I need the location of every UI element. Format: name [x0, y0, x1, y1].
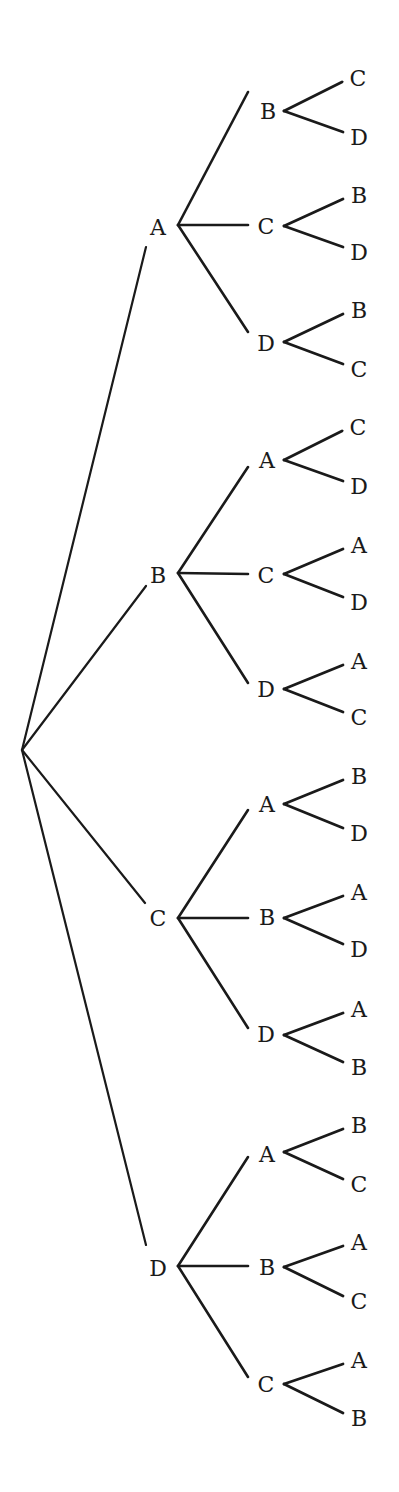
- branch-BD-to-A: [284, 665, 343, 689]
- branch-AC-to-D: [284, 226, 343, 247]
- branch-CD-to-B: [284, 1035, 343, 1062]
- leaf-BDA: A: [351, 651, 367, 673]
- node-level2-BA: A: [259, 450, 275, 472]
- node-level2-CB: B: [259, 907, 275, 929]
- node-level1-C: C: [150, 908, 167, 930]
- leaf-ADC: C: [351, 359, 368, 381]
- branch-A-to-D: [178, 225, 248, 332]
- leaf-BAD: D: [350, 476, 368, 498]
- node-level2-DB: B: [259, 1257, 275, 1279]
- leaf-CDA: A: [351, 999, 367, 1021]
- branch-AB-to-D: [284, 111, 343, 132]
- branch-root-to-A: [22, 247, 146, 750]
- leaf-CAD: D: [350, 823, 368, 845]
- branch-AD-to-B: [284, 314, 343, 342]
- branch-DB-to-C: [284, 1267, 343, 1296]
- branch-AD-to-C: [284, 342, 343, 364]
- branch-D-to-A: [178, 1157, 248, 1266]
- leaf-BCD: D: [350, 592, 368, 614]
- branch-BC-to-A: [284, 549, 343, 574]
- node-level2-CD: D: [257, 1024, 275, 1046]
- node-level1-D: D: [149, 1258, 167, 1280]
- leaf-BDC: C: [351, 707, 368, 729]
- branch-B-to-A: [178, 467, 248, 573]
- leaf-DCA: A: [351, 1350, 367, 1372]
- branch-C-to-D: [178, 918, 248, 1028]
- node-level2-AD: D: [257, 333, 275, 355]
- leaf-DCB: B: [351, 1408, 367, 1430]
- leaf-BAC: C: [350, 417, 367, 439]
- branch-BA-to-C: [284, 431, 342, 460]
- node-level2-AB: B: [260, 101, 276, 123]
- node-level2-AC: C: [258, 216, 275, 238]
- branch-B-to-D: [178, 573, 248, 683]
- node-level2-BD: D: [257, 679, 275, 701]
- leaf-CAB: B: [351, 766, 367, 788]
- leaf-CBA: A: [351, 882, 367, 904]
- branch-BA-to-D: [284, 460, 343, 481]
- leaf-ADB: B: [351, 300, 367, 322]
- leaf-CDB: B: [351, 1057, 367, 1079]
- branch-AC-to-B: [284, 199, 343, 226]
- branch-A-to-B: [178, 92, 248, 225]
- branch-CA-to-B: [284, 780, 343, 804]
- branch-DA-to-C: [284, 1152, 343, 1179]
- leaf-ACB: B: [351, 185, 367, 207]
- branch-BC-to-D: [284, 574, 343, 597]
- node-level2-CA: A: [259, 794, 275, 816]
- branch-CD-to-A: [284, 1013, 343, 1035]
- branch-AB-to-C: [284, 82, 342, 111]
- branch-root-to-D: [22, 750, 146, 1245]
- branch-CB-to-A: [284, 896, 343, 918]
- branch-root-to-B: [22, 586, 146, 750]
- leaf-CBD: D: [350, 939, 368, 961]
- leaf-DBC: C: [351, 1291, 368, 1313]
- branch-DC-to-A: [284, 1364, 343, 1384]
- node-level2-DC: C: [258, 1374, 275, 1396]
- branch-BD-to-C: [284, 689, 343, 712]
- branch-DA-to-B: [284, 1129, 343, 1152]
- branch-D-to-C: [178, 1266, 248, 1377]
- branch-CA-to-D: [284, 804, 343, 828]
- node-level2-BC: C: [258, 565, 275, 587]
- node-level2-DA: A: [259, 1144, 275, 1166]
- branch-B-to-C: [178, 573, 248, 574]
- branch-DC-to-B: [284, 1384, 343, 1413]
- leaf-ABD: D: [350, 127, 368, 149]
- leaf-DAC: C: [351, 1174, 368, 1196]
- branch-C-to-A: [178, 810, 248, 918]
- leaf-ACD: D: [350, 242, 368, 264]
- branch-DB-to-A: [284, 1246, 343, 1267]
- leaf-BCA: A: [351, 535, 367, 557]
- leaf-DAB: B: [351, 1115, 367, 1137]
- leaf-ABC: C: [350, 68, 367, 90]
- tree-diagram-lines: [0, 0, 399, 1492]
- node-level1-A: A: [150, 217, 166, 239]
- node-level1-B: B: [150, 565, 166, 587]
- leaf-DBA: A: [351, 1232, 367, 1254]
- branch-CB-to-D: [284, 918, 343, 944]
